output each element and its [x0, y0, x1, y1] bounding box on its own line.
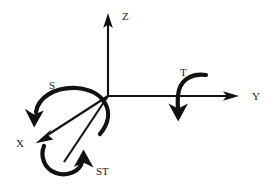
rotation-arrow-s — [25, 88, 108, 134]
x-axis — [36, 96, 109, 143]
diagram-canvas: Z Y X S T ST — [0, 0, 277, 187]
y-axis — [108, 91, 239, 101]
x-axis-arrowhead — [36, 130, 54, 144]
axes-diagram: Z Y X S T ST — [0, 0, 277, 187]
y-axis-label: Y — [252, 90, 260, 102]
z-axis — [103, 13, 113, 96]
t-rotation-label: T — [180, 66, 187, 78]
st-arrowhead — [74, 150, 94, 168]
st-arc-curve — [43, 146, 83, 174]
t-arc-curve — [178, 75, 206, 108]
s-rotation-label: S — [49, 79, 55, 91]
z-axis-label: Z — [122, 10, 129, 22]
x-axis-label: X — [16, 137, 24, 149]
st-rotation-label: ST — [96, 165, 109, 177]
rotation-arrow-t — [169, 75, 207, 122]
x-axis-line — [46, 96, 108, 136]
rotation-arrow-st — [43, 146, 94, 174]
